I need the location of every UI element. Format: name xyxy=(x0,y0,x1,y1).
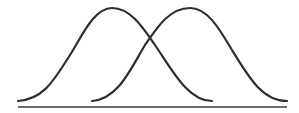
left-bell-curve xyxy=(18,8,212,101)
diagram-canvas xyxy=(0,0,299,113)
right-bell-curve xyxy=(92,8,287,101)
bell-curves-diagram xyxy=(0,0,299,113)
